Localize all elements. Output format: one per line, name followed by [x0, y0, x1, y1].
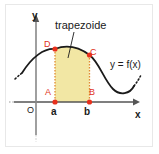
shaded-trapezoid-region — [55, 46, 90, 102]
x-tick-label-b: b — [84, 107, 90, 117]
y-axis-label: y — [32, 11, 38, 21]
function-curve-right-tail — [134, 76, 141, 86]
point-C-label: C — [90, 48, 97, 57]
point-B-label: B — [89, 88, 95, 97]
x-tick-label-a: a — [51, 107, 57, 117]
point-B-marker — [87, 99, 92, 104]
function-curve-left-tail — [15, 73, 22, 79]
trapezoid-integral-figure: trapezoide y = f(x) y x O a b A B C D — [0, 0, 159, 154]
point-A-label: A — [45, 88, 51, 97]
x-axis-label: x — [135, 110, 141, 120]
trapezoide-label: trapezoide — [55, 20, 106, 31]
point-D-marker — [52, 46, 57, 51]
point-A-marker — [52, 99, 57, 104]
x-axis-arrow-icon — [133, 99, 140, 106]
point-D-label: D — [44, 40, 51, 49]
origin-label: O — [27, 106, 34, 115]
function-label: y = f(x) — [110, 60, 141, 70]
